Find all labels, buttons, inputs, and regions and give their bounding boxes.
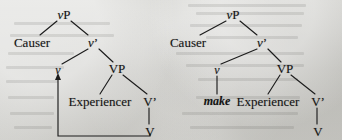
- node-make-lexical-item: make: [204, 95, 231, 107]
- branch-VP-experiencer-right: [268, 75, 280, 94]
- node-V-bar-right-V: V: [311, 94, 320, 109]
- node-causer-right: Causer: [170, 36, 206, 49]
- node-vP-right: vP: [226, 8, 239, 21]
- node-v-right: v: [214, 64, 219, 76]
- branch-VP-Vbar-right: [291, 75, 315, 94]
- figure-canvas: vP Causer v’ v VP Experiencer V’ V: [0, 0, 342, 140]
- branch-vP-causer-right: [200, 21, 226, 35]
- node-v-bar-right-prime: ’: [263, 35, 267, 50]
- node-V-bar-right: V’: [311, 95, 325, 108]
- branch-vP-vbar-right: [240, 21, 257, 35]
- node-VP-right: VP: [277, 62, 294, 75]
- branch-vbar-v-right: [221, 49, 257, 64]
- node-V-bar-right-prime: ’: [321, 94, 325, 109]
- node-experiencer-right: Experiencer: [237, 95, 300, 108]
- node-vP-right-P: P: [232, 7, 239, 22]
- node-V-right: V: [313, 125, 322, 138]
- node-v-bar-right: v’: [257, 36, 267, 49]
